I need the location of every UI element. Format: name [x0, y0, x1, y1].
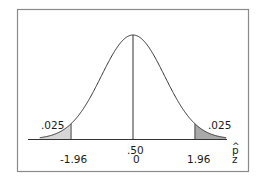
left-tail-label: .025 [41, 119, 64, 131]
center-z-label: 0 [133, 153, 140, 165]
right-critical-label: 1.96 [187, 153, 211, 165]
normal-distribution-chart: .025 .025 .50 0 -1.96 1.96 ^ p z [0, 0, 262, 180]
left-critical-label: -1.96 [60, 153, 87, 165]
right-tail-label: .025 [208, 119, 231, 131]
z-axis-label: z [232, 153, 238, 165]
